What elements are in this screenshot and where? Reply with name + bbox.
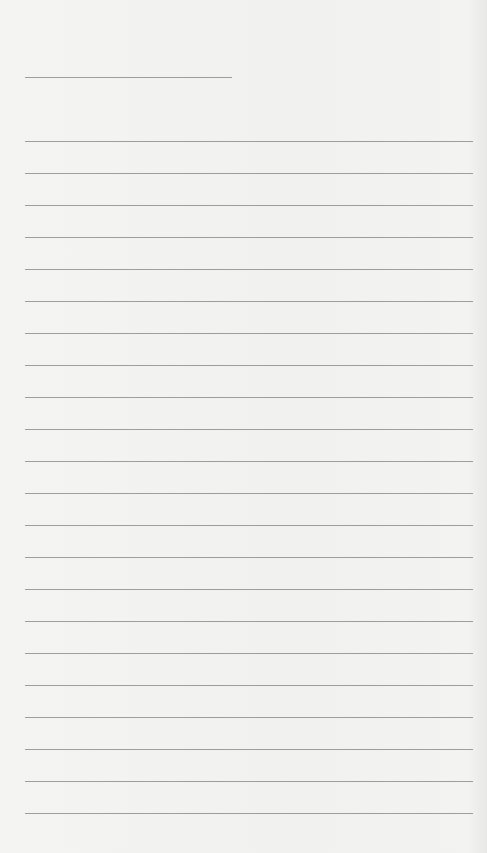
ruled-line — [25, 269, 473, 270]
ruled-line — [25, 301, 473, 302]
ruled-line — [25, 461, 473, 462]
ruled-line — [25, 653, 473, 654]
lined-paper-sheet — [0, 0, 487, 853]
ruled-line — [25, 525, 473, 526]
ruled-line — [25, 237, 473, 238]
ruled-line — [25, 141, 473, 142]
header-name-line — [25, 77, 232, 78]
ruled-line — [25, 173, 473, 174]
ruled-line — [25, 493, 473, 494]
ruled-line — [25, 621, 473, 622]
ruled-line — [25, 397, 473, 398]
ruled-line — [25, 813, 473, 814]
ruled-line — [25, 557, 473, 558]
ruled-line — [25, 589, 473, 590]
ruled-line — [25, 365, 473, 366]
ruled-line — [25, 333, 473, 334]
ruled-line — [25, 685, 473, 686]
ruled-line — [25, 205, 473, 206]
ruled-line — [25, 429, 473, 430]
ruled-line — [25, 717, 473, 718]
ruled-line — [25, 781, 473, 782]
ruled-line — [25, 749, 473, 750]
